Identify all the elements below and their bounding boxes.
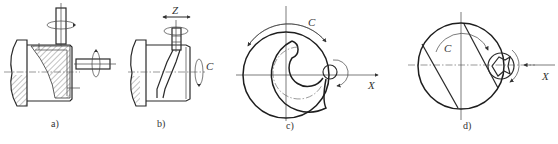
subfigure-d: X C [408, 12, 555, 120]
label-x-c: X [367, 79, 376, 91]
caption-d: d) [463, 120, 471, 131]
subfigure-c: X C [236, 6, 378, 121]
subfigure-a [4, 3, 116, 106]
label-c-b: C [206, 60, 214, 72]
caption-c: c) [286, 120, 294, 131]
label-c-d: C [444, 42, 452, 54]
label-c-c: C [308, 16, 316, 28]
milling-diagram: Z C X C X C [0, 0, 558, 144]
subfigure-b: Z C [128, 4, 214, 106]
caption-b: b) [157, 118, 165, 129]
label-x-d: X [541, 70, 550, 82]
caption-a: a) [51, 118, 59, 129]
label-z: Z [172, 4, 179, 16]
